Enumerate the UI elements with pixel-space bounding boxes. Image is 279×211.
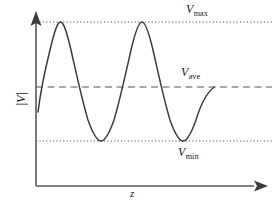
vmax-symbol: V [186,2,193,16]
plot-canvas [0,0,279,211]
vmin-label: Vmin [178,146,198,158]
vave-subscript: ave [189,72,201,81]
x-axis-label: z [130,188,134,199]
vave-label: Vave [181,66,200,78]
standing-wave-curve [38,22,215,141]
vmax-label: Vmax [186,3,208,15]
vave-symbol: V [181,65,188,79]
standing-wave-figure: Vmax Vave Vmin |V| z [0,0,279,211]
y-axis-label: |V| [15,92,27,106]
vmin-symbol: V [178,145,185,159]
vmax-subscript: max [194,9,208,18]
x-axis-arrowhead [254,181,268,192]
vmin-subscript: min [186,152,199,161]
